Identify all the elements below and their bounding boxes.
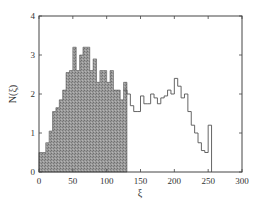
outline-histogram xyxy=(124,78,212,172)
x-tick-labels: 050100150200250300 xyxy=(37,176,250,186)
y-axis-label: N(ξ) xyxy=(7,85,19,103)
y-tick-label: 2 xyxy=(31,89,36,99)
y-tick-label: 3 xyxy=(31,50,36,60)
x-tick-label: 100 xyxy=(100,176,114,186)
filled-histogram xyxy=(39,47,127,172)
y-tick-labels: 01234 xyxy=(31,11,36,177)
y-tick-label: 4 xyxy=(31,11,36,21)
x-tick-label: 300 xyxy=(235,176,249,186)
x-tick-label: 50 xyxy=(68,176,78,186)
x-tick-label: 250 xyxy=(201,176,215,186)
y-tick-label: 0 xyxy=(31,167,36,177)
x-tick-label: 0 xyxy=(37,176,42,186)
x-axis-label: ξ xyxy=(138,187,143,199)
x-tick-label: 200 xyxy=(168,176,182,186)
outline-bars xyxy=(124,78,212,172)
x-tick-label: 150 xyxy=(134,176,148,186)
y-tick-label: 1 xyxy=(31,128,36,138)
filled-bars xyxy=(39,47,127,172)
histogram-chart: 050100150200250300 01234 ξ N(ξ) xyxy=(0,0,260,207)
